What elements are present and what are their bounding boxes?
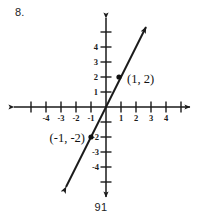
y-tick-label: 2 bbox=[94, 72, 98, 82]
page-number-label: 91 bbox=[0, 201, 202, 213]
worksheet-page: 8. -4 -3 -2 - bbox=[0, 0, 202, 215]
x-tick-label: 1 bbox=[119, 113, 123, 123]
y-tick-label: -3 bbox=[92, 147, 99, 157]
x-tick-label: -1 bbox=[87, 113, 94, 123]
x-tick-label: -4 bbox=[42, 113, 50, 123]
x-tick-label: 3 bbox=[149, 113, 153, 123]
x-tick-label: 2 bbox=[134, 113, 138, 123]
y-tick-label: 4 bbox=[94, 42, 99, 52]
x-tick-label: -2 bbox=[72, 113, 79, 123]
point-label-negative: (-1, -2) bbox=[50, 131, 85, 145]
x-axis: -4 -3 -2 -1 1 2 3 4 bbox=[14, 102, 190, 124]
coordinate-graph: -4 -3 -2 -1 1 2 3 4 4 3 2 bbox=[0, 0, 202, 215]
x-tick-label: -3 bbox=[57, 113, 64, 123]
y-tick-label: 1 bbox=[94, 87, 98, 97]
y-tick-label: 3 bbox=[94, 57, 98, 67]
y-tick-label: -4 bbox=[92, 162, 100, 172]
point-label-positive: (1, 2) bbox=[127, 72, 154, 86]
data-point-marker bbox=[88, 134, 93, 139]
data-point-marker bbox=[116, 74, 121, 79]
x-tick-label: 4 bbox=[164, 113, 169, 123]
